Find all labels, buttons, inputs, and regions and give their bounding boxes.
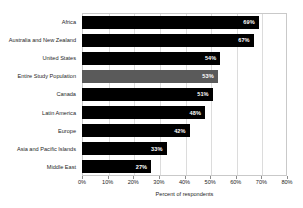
category-label: Entire Study Population <box>0 67 79 85</box>
bar: 54% <box>82 52 220 65</box>
category-label: Latin America <box>0 104 79 122</box>
bar-value-label: 67% <box>238 37 254 43</box>
bar-value-label: 42% <box>174 128 190 134</box>
category-label: Africa <box>0 13 79 31</box>
tick-label: 60% <box>230 179 241 185</box>
bar-chart: 69%67%54%53%51%48%42%33%27% AfricaAustra… <box>0 0 303 208</box>
bar-row: 48% <box>82 104 287 122</box>
category-label: Asia and Pacific Islands <box>0 140 79 158</box>
tick-label: 20% <box>128 179 139 185</box>
category-label: United States <box>0 49 79 67</box>
bar: 27% <box>82 160 151 173</box>
bar: 51% <box>82 88 213 101</box>
category-label: Europe <box>0 122 79 140</box>
category-axis-labels: AfricaAustralia and New ZealandUnited St… <box>0 13 79 176</box>
bar-row: 33% <box>82 140 287 158</box>
bar-row: 53% <box>82 67 287 85</box>
bar-value-label: 27% <box>136 164 152 170</box>
bars-layer: 69%67%54%53%51%48%42%33%27% <box>82 13 287 176</box>
tick-label: 10% <box>102 179 113 185</box>
tick-label: 50% <box>205 179 216 185</box>
bar: 42% <box>82 124 190 137</box>
x-axis-title: Percent of respondents <box>82 191 287 197</box>
bar: 48% <box>82 106 205 119</box>
tick-label: 80% <box>281 179 292 185</box>
bar-value-label: 48% <box>190 110 206 116</box>
category-label: Middle East <box>0 158 79 176</box>
tick-label: 40% <box>179 179 190 185</box>
bar: 69% <box>82 16 259 29</box>
category-label: Australia and New Zealand <box>0 31 79 49</box>
bar-row: 27% <box>82 158 287 176</box>
bar-value-label: 54% <box>205 55 221 61</box>
tick-label: 30% <box>153 179 164 185</box>
tick-label: 70% <box>256 179 267 185</box>
bar-value-label: 53% <box>202 73 218 79</box>
bar-row: 67% <box>82 31 287 49</box>
bar: 53% <box>82 70 218 83</box>
bar-value-label: 51% <box>197 91 213 97</box>
cut-off-title-sliver <box>0 0 303 6</box>
bar-value-label: 69% <box>243 19 259 25</box>
bar-row: 54% <box>82 49 287 67</box>
bar: 33% <box>82 142 167 155</box>
bar-row: 51% <box>82 85 287 103</box>
bar-row: 69% <box>82 13 287 31</box>
bar-row: 42% <box>82 122 287 140</box>
tick-label: 0% <box>78 179 86 185</box>
category-label: Canada <box>0 85 79 103</box>
x-axis-tick-labels: 0%10%20%30%40%50%60%70%80% <box>82 179 287 189</box>
bar-value-label: 33% <box>151 146 167 152</box>
bar: 67% <box>82 34 254 47</box>
